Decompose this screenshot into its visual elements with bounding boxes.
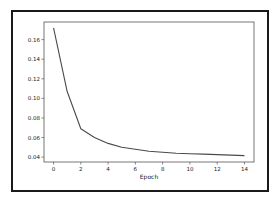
series-line-loss	[54, 28, 245, 156]
y-tick-label: 0.04	[28, 154, 41, 160]
y-tick-label: 0.14	[28, 56, 41, 62]
x-tick-label: 8	[161, 166, 165, 172]
y-tick-label: 0.08	[28, 115, 41, 121]
plot-area	[44, 22, 254, 162]
y-axis: 0.040.060.080.100.120.140.16	[28, 37, 44, 160]
y-tick-label: 0.12	[28, 76, 40, 82]
figure-caption-smudge	[114, 194, 134, 197]
y-tick-label: 0.10	[28, 95, 41, 101]
x-tick-label: 12	[214, 166, 221, 172]
series-group	[54, 28, 245, 156]
x-tick-label: 14	[241, 166, 248, 172]
x-tick-label: 4	[106, 166, 110, 172]
y-tick-label: 0.16	[28, 37, 41, 43]
y-tick-label: 0.06	[28, 135, 41, 141]
x-tick-label: 2	[79, 166, 83, 172]
line-chart: 02468101214 0.040.060.080.100.120.140.16…	[0, 0, 275, 202]
x-axis: 02468101214	[52, 162, 249, 172]
x-tick-label: 6	[134, 166, 138, 172]
x-tick-label: 10	[186, 166, 193, 172]
x-axis-label: Epoch	[140, 173, 159, 181]
x-tick-label: 0	[52, 166, 56, 172]
